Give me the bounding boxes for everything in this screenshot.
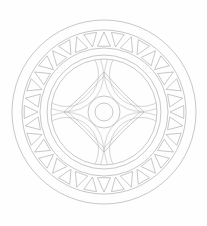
triangle-apex-in	[111, 32, 124, 47]
triangle-apex-out	[35, 72, 51, 85]
center-outer-circle	[88, 96, 120, 128]
triangle-apex-in	[27, 133, 42, 145]
triangle-apex-out	[168, 117, 183, 130]
triangle-apex-in	[155, 154, 170, 168]
center-inner-circle	[95, 103, 113, 121]
star-outline-inner	[68, 76, 140, 148]
triangle-apex-out	[53, 158, 67, 173]
triangle-apex-out	[98, 178, 111, 192]
triangle-apex-out	[158, 72, 174, 85]
triangle-apex-out	[141, 51, 155, 66]
triangle-apex-in	[59, 169, 71, 184]
triangle-apex-in	[155, 56, 170, 70]
triangle-apex-in	[39, 56, 54, 70]
petal-arc-group	[30, 38, 179, 187]
triangle-apex-out	[25, 117, 40, 130]
triangle-apex-out	[158, 139, 174, 152]
triangle-apex-out	[35, 139, 51, 152]
triangle-apex-out	[168, 94, 183, 107]
triangle-apex-in	[24, 106, 38, 119]
triangle-band-group	[24, 32, 183, 192]
star-core-group	[64, 72, 144, 152]
triangle-band-inner-circle	[40, 48, 168, 176]
triangle-apex-in	[111, 177, 124, 192]
triangle-apex-in	[170, 106, 184, 119]
ring-group	[12, 20, 196, 204]
inner-disc-circle-secondary	[51, 59, 157, 165]
triangle-apex-in	[59, 40, 71, 55]
triangle-apex-out	[53, 51, 67, 66]
triangle-apex-out	[98, 32, 111, 46]
star-outline-outer	[64, 72, 144, 152]
triangle-apex-in	[39, 154, 54, 168]
triangle-apex-out	[141, 158, 155, 173]
triangle-apex-in	[84, 177, 97, 192]
mandala-artboard: Decorative circular mandala with a ring …	[0, 0, 207, 226]
triangle-apex-in	[166, 133, 181, 145]
triangle-apex-in	[166, 79, 181, 91]
triangle-apex-in	[137, 169, 149, 184]
triangle-apex-in	[27, 79, 42, 91]
triangle-apex-in	[137, 40, 149, 55]
triangle-apex-out	[25, 94, 40, 107]
mandala-drawing: Decorative circular mandala with a ring …	[0, 0, 207, 226]
center-circles-group	[88, 96, 120, 128]
triangle-apex-in	[84, 32, 97, 47]
